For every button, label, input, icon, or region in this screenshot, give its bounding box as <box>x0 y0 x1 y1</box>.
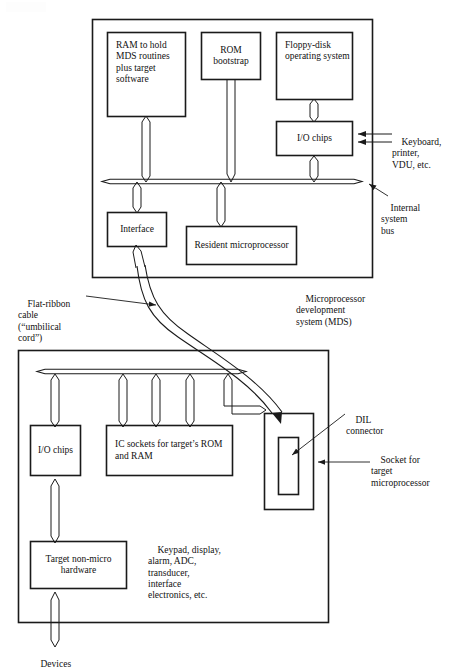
rom-box-text: ROM bootstrap <box>203 45 259 68</box>
target-hw-box-text: Target non-micro hardware <box>32 554 125 577</box>
mds-caption-text: Microprocessor development system (MDS) <box>296 294 365 326</box>
flat-ribbon-cable-text: Flat-ribbon cable (“umbilical cord”) <box>18 299 70 343</box>
devices-text: Devices <box>41 659 72 669</box>
internal-bus-label: Internal system bus <box>381 192 420 248</box>
arrow-rom-bus <box>227 80 235 182</box>
mds-io-box-text: I/O chips <box>297 133 332 144</box>
dil-leader-line <box>292 414 345 455</box>
arrow-target-bus-io <box>51 374 59 427</box>
arrow-io-bus <box>310 156 318 182</box>
flat-ribbon-cable-label: Flat-ribbon cable (“umbilical cord”) <box>18 288 70 355</box>
dil-connector-text: DIL connector <box>346 415 383 436</box>
ram-box-label: RAM to hold MDS routines plus target sof… <box>116 40 186 112</box>
resident-cpu-box-text: Resident microprocessor <box>194 240 288 251</box>
fdos-box-label: Floppy-disk operating system <box>285 40 355 98</box>
arrow-bus-resident-cpu <box>217 182 225 227</box>
target-hw-box-label: Target non-micro hardware <box>32 543 125 587</box>
arrow-fdos-io <box>310 99 318 122</box>
target-io-box-label: I/O chips <box>28 427 83 474</box>
target-system-bus <box>37 369 246 374</box>
socket-target-cpu-text: Socket for target microprocessor <box>371 455 430 487</box>
arrow-target-bus-socket-1 <box>119 374 127 427</box>
target-peripherals-text: Keypad, display, alarm, ADC, transducer,… <box>148 545 221 600</box>
rom-box-label: ROM bootstrap <box>203 34 259 78</box>
arrow-target-bus-dil <box>224 374 266 414</box>
socket-target-cpu-label: Socket for target microprocessor <box>371 444 430 500</box>
fdos-box-text: Floppy-disk operating system <box>285 40 355 63</box>
arrow-peripherals-mds-io <box>358 134 392 142</box>
mds-io-box-label: I/O chips <box>278 123 351 154</box>
devices-label: Devices <box>31 648 71 671</box>
interface-box-label: Interface <box>109 214 165 245</box>
ic-sockets-box-label: IC sockets for target’s ROM and RAM <box>115 427 235 474</box>
target-io-box-text: I/O chips <box>38 445 73 456</box>
arrow-target-bus-socket-2 <box>152 374 160 427</box>
arrow-ram-bus <box>142 116 150 182</box>
arrow-target-io-hw <box>51 479 59 543</box>
ic-sockets-box-text: IC sockets for target’s ROM and RAM <box>115 439 235 462</box>
arrow-target-hw-devices <box>51 592 59 647</box>
arrow-cable-interface <box>133 245 145 268</box>
flat-ribbon-cable <box>137 265 282 424</box>
mds-caption: Microprocessor development system (MDS) <box>296 283 365 339</box>
arrow-target-bus-socket-3 <box>186 374 194 427</box>
ram-box-text: RAM to hold MDS routines plus target sof… <box>116 40 186 86</box>
target-peripherals-label: Keypad, display, alarm, ADC, transducer,… <box>148 534 221 612</box>
arrow-bus-interface <box>133 182 141 213</box>
internal-bus-text: Internal system bus <box>381 203 420 235</box>
peripherals-mds-label: Keyboard, printer, VDU, etc. <box>392 126 441 182</box>
dil-connector-label: DIL connector <box>346 404 383 449</box>
resident-cpu-box-label: Resident microprocessor <box>188 228 295 263</box>
dil-inner-socket-border <box>279 438 299 495</box>
interface-box-text: Interface <box>120 224 154 235</box>
peripherals-mds-text: Keyboard, printer, VDU, etc. <box>392 137 441 169</box>
